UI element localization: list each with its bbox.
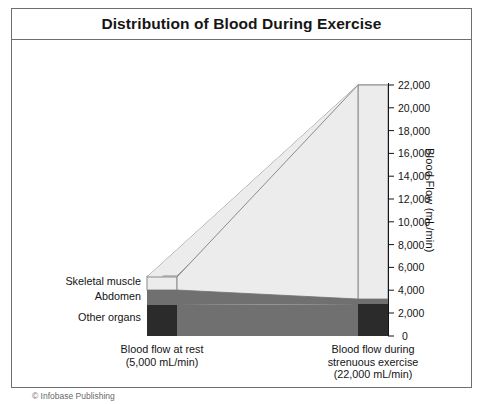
figure-title-bar: Distribution of Blood During Exercise: [12, 9, 471, 40]
bar-exercise-abdomen: [358, 299, 388, 304]
series-label-other-organs: Other organs: [31, 312, 141, 323]
bar-rest-other-organs: [147, 305, 177, 336]
figure-page: Distribution of Blood During Exercise: [0, 0, 482, 404]
bar-rest-abdomen: [147, 290, 177, 305]
connector-skeletal-muscle: [177, 85, 358, 299]
bar-exercise-skeletal-muscle: [358, 85, 388, 299]
figure-frame: Distribution of Blood During Exercise: [11, 8, 472, 388]
y-tick-label: 22,000: [398, 80, 430, 90]
series-label-abdomen: Abdomen: [41, 291, 141, 302]
bar-rest-skeletal-muscle: [147, 277, 177, 290]
x-category-exercise-line2: strenuous exercise: [303, 356, 443, 369]
y-axis-title: Blood Flow (mL/min): [424, 148, 436, 253]
y-tick-label: 2,000: [398, 308, 424, 318]
y-tick-label: 18,000: [398, 126, 430, 136]
page-title: Distribution of Blood During Exercise: [101, 15, 381, 33]
plot-area: 22,000 20,000 18,000 16,000 14,000 12,00…: [12, 40, 471, 387]
bar-exercise-other-organs: [358, 304, 388, 336]
credit-line: © Infobase Publishing: [32, 391, 115, 401]
x-category-rest-line2: (5,000 mL/min): [92, 356, 232, 369]
y-tick-label: 8,000: [398, 240, 424, 250]
x-category-rest: Blood flow at rest (5,000 mL/min): [92, 343, 232, 368]
y-tick-label: 6,000: [398, 262, 424, 272]
x-category-rest-line1: Blood flow at rest: [92, 343, 232, 356]
series-label-skeletal-muscle: Skeletal muscle: [41, 276, 141, 287]
y-tick-label: 0: [402, 331, 408, 341]
x-category-exercise-line1: Blood flow during: [303, 343, 443, 356]
y-tick-label: 4,000: [398, 285, 424, 295]
connector-other-organs: [177, 304, 358, 336]
x-category-exercise: Blood flow during strenuous exercise (22…: [303, 343, 443, 381]
x-category-exercise-line3: (22,000 mL/min): [303, 368, 443, 381]
y-tick-label: 20,000: [398, 103, 430, 113]
